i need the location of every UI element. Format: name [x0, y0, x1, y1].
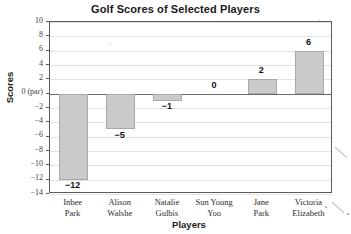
scan-artifact: [325, 206, 327, 208]
x-axis-title: Players: [45, 219, 333, 230]
y-axis-title: Scores: [4, 65, 15, 111]
gridline: [50, 22, 331, 23]
scan-artifact: [319, 20, 320, 21]
bar-value-label: −1: [137, 101, 197, 111]
gridline: [50, 51, 331, 52]
scan-artifact: [347, 213, 349, 215]
x-category-label-line: Elizabeth: [268, 208, 348, 219]
gridline: [50, 122, 331, 123]
bar: [295, 51, 324, 94]
scan-artifact: [335, 147, 348, 158]
gridline: [50, 165, 331, 166]
bar: [59, 94, 88, 180]
zero-line: [50, 94, 331, 95]
bar-value-label: 6: [278, 37, 338, 47]
bar-value-label: −5: [90, 130, 150, 140]
bar-value-label: −12: [43, 180, 103, 190]
bar: [153, 94, 182, 101]
gridline: [50, 151, 331, 152]
y-tick-mark: [46, 193, 49, 194]
gridline: [50, 194, 331, 195]
bar: [248, 79, 277, 93]
bar: [106, 94, 135, 130]
chart-title: Golf Scores of Selected Players: [0, 3, 351, 15]
scan-artifact: [110, 44, 111, 45]
bar-value-label: 0: [184, 80, 244, 90]
bar-value-label: 2: [231, 65, 291, 75]
